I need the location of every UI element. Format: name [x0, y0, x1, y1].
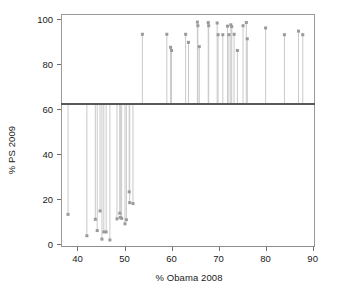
x-axis-ticks: 405060708090: [61, 247, 315, 273]
data-point: [125, 218, 128, 221]
x-tick-mark: [125, 247, 126, 251]
data-point: [118, 212, 121, 215]
data-point: [230, 25, 233, 28]
data-point: [196, 21, 199, 24]
data-point: [170, 49, 173, 52]
data-point: [115, 217, 118, 220]
data-point: [105, 230, 108, 233]
data-point: [141, 33, 144, 36]
x-tick-label: 50: [119, 253, 130, 264]
data-point: [196, 24, 199, 27]
data-point: [198, 45, 201, 48]
data-point: [123, 222, 126, 225]
chart-figure: % PS 2009 020406080100 405060708090 % Ob…: [0, 0, 338, 300]
data-point: [100, 238, 103, 241]
y-tick-label: 40: [42, 148, 53, 159]
data-point: [227, 33, 230, 36]
data-point: [99, 209, 102, 212]
data-point: [207, 24, 210, 27]
x-tick-mark: [172, 247, 173, 251]
data-point: [131, 202, 134, 205]
stem-lines: [68, 22, 303, 240]
x-tick-mark: [77, 247, 78, 251]
data-point: [165, 33, 168, 36]
y-tick-label: 0: [48, 238, 53, 249]
y-tick-label: 60: [42, 103, 53, 114]
y-tick-label: 80: [42, 58, 53, 69]
x-tick-label: 90: [307, 253, 318, 264]
data-point: [242, 24, 245, 27]
x-axis-title: % Obama 2008: [60, 272, 318, 283]
data-point: [128, 201, 131, 204]
x-tick-mark: [219, 247, 220, 251]
data-point: [120, 217, 123, 220]
y-tick-label: 100: [37, 13, 53, 24]
data-point: [217, 33, 220, 36]
plot-area: [61, 14, 315, 247]
data-point: [246, 37, 249, 40]
data-point: [216, 22, 219, 25]
data-point: [169, 46, 172, 49]
x-tick-label: 60: [166, 253, 177, 264]
data-point: [85, 234, 88, 237]
data-point: [187, 41, 190, 44]
x-tick-label: 40: [72, 253, 83, 264]
data-point: [221, 33, 224, 36]
x-tick-label: 80: [260, 253, 271, 264]
data-point: [245, 21, 248, 24]
data-point: [96, 229, 99, 232]
data-point: [94, 218, 97, 221]
x-tick-mark: [266, 247, 267, 251]
data-canvas: [61, 14, 315, 247]
y-tick-label: 20: [42, 193, 53, 204]
y-tick-label-group: 020406080100: [26, 0, 53, 300]
data-point: [264, 26, 267, 29]
y-axis-ticks: 020406080100: [0, 0, 61, 300]
x-tick-label: 70: [213, 253, 224, 264]
data-point: [233, 33, 236, 36]
data-point: [301, 33, 304, 36]
data-point: [67, 213, 70, 216]
data-point: [236, 49, 239, 52]
data-point: [207, 21, 210, 24]
data-point: [226, 25, 229, 28]
data-point: [108, 239, 111, 242]
x-tick-mark: [313, 247, 314, 251]
data-point: [297, 30, 300, 33]
data-point: [128, 190, 131, 193]
data-point: [283, 33, 286, 36]
data-point: [184, 33, 187, 36]
